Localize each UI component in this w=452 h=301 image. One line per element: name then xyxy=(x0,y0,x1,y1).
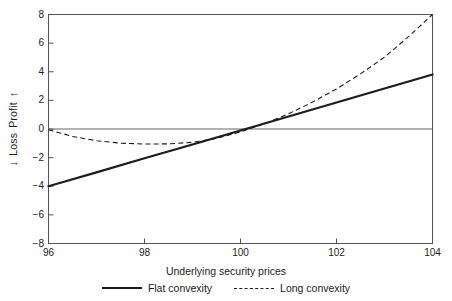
y-axis-label-profit: Profit xyxy=(7,102,19,128)
legend-item-long-convexity: Long convexity xyxy=(234,282,350,294)
x-axis-label: Underlying security prices xyxy=(0,265,452,277)
y-tick-label: −4 xyxy=(33,181,44,191)
legend-swatch-solid xyxy=(102,284,142,292)
legend-item-flat-convexity: Flat convexity xyxy=(102,282,212,294)
profit-up-arrow-icon: ↑ xyxy=(8,91,19,97)
x-tick-label: 98 xyxy=(139,248,150,258)
legend-swatch-dashed xyxy=(234,284,274,292)
y-tick-label: −2 xyxy=(33,153,44,163)
legend-label-long-convexity: Long convexity xyxy=(280,282,350,294)
series-long-convexity xyxy=(49,15,433,145)
y-tick-label: 8 xyxy=(38,10,44,20)
y-tick-label: 0 xyxy=(38,124,44,134)
loss-down-arrow-icon: ↓ xyxy=(8,160,19,166)
y-tick-label: −6 xyxy=(33,210,44,220)
y-tick-label: 6 xyxy=(38,38,44,48)
y-tick-label: 2 xyxy=(38,95,44,105)
legend-label-flat-convexity: Flat convexity xyxy=(148,282,212,294)
chart-figure: ↓ Loss Profit ↑ −8−6−4−202468 9698100102… xyxy=(0,0,452,301)
chart-legend: Flat convexity Long convexity xyxy=(0,282,452,294)
x-tick-marks xyxy=(49,239,433,244)
y-axis-label-loss: Loss xyxy=(7,132,19,155)
x-tick-label: 104 xyxy=(424,248,441,258)
x-tick-label: 102 xyxy=(328,248,345,258)
x-tick-label: 96 xyxy=(43,248,54,258)
x-tick-labels: 9698100102104 xyxy=(0,248,452,262)
x-tick-label: 100 xyxy=(232,248,249,258)
y-tick-label: 4 xyxy=(38,67,44,77)
series-flat-convexity xyxy=(49,75,433,187)
